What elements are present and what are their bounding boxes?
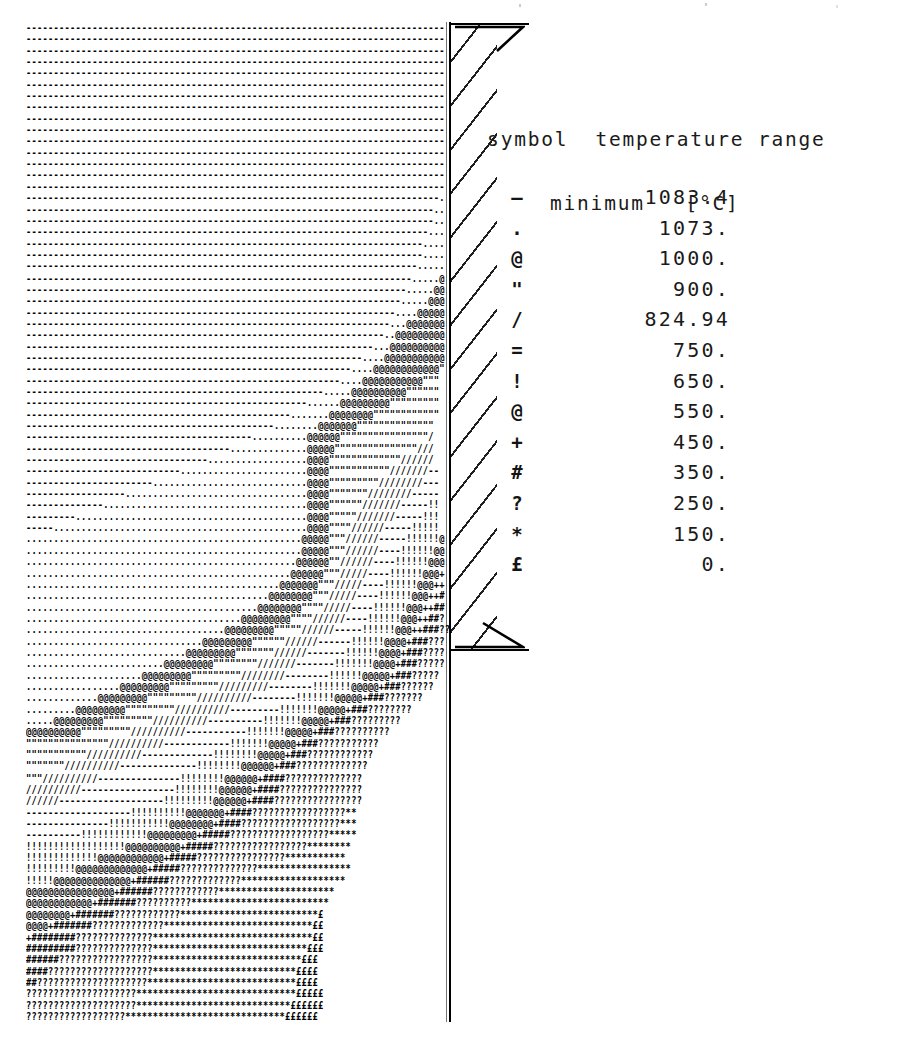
legend-symbol: # [500,457,534,488]
ascii-contour-plot: ----------------------------------------… [26,22,450,1022]
legend-symbol: + [500,427,534,458]
legend-symbol: @ [500,396,534,427]
legend-value: 250. [570,488,730,519]
corner-angle-bottom-icon [453,619,525,649]
legend-value: 450. [570,427,730,458]
legend-symbol: — [500,182,534,213]
corner-angle-top-icon [453,25,525,55]
legend-value: 650. [570,366,730,397]
legend-row: "900. [460,274,860,305]
legend-entries: —1083.4.1073.@1000."900./824.94=750.!650… [460,182,860,580]
legend-title-line-1: symbol temperature range [487,128,826,151]
ascii-plot-text: ----------------------------------------… [26,22,389,1022]
legend-value: 1083.4 [570,182,730,213]
plot-frame-inner-rule [446,22,447,1022]
legend-symbol: " [500,274,534,305]
legend-row: .1073. [460,213,860,244]
legend-row: *150. [460,519,860,550]
legend-value: 1000. [570,243,730,274]
legend-symbol: £ [500,549,534,580]
legend-row: —1083.4 [460,182,860,213]
legend-row: #350. [460,457,860,488]
legend-symbol: * [500,519,534,550]
legend-box-bottom-edge [449,649,529,651]
legend-value: 150. [570,519,730,550]
legend-row: +450. [460,427,860,458]
legend-value: 350. [570,457,730,488]
legend-value: 750. [570,335,730,366]
legend-symbol: = [500,335,534,366]
legend-row: !650. [460,366,860,397]
legend-value: 824.94 [570,304,730,335]
legend-row: ?250. [460,488,860,519]
legend-symbol: ! [500,366,534,397]
scan-artifact [519,4,521,7]
legend-symbol: . [500,213,534,244]
legend-value: 1073. [570,213,730,244]
scan-artifact [705,3,707,6]
legend-symbol: ? [500,488,534,519]
legend-symbol: / [500,304,534,335]
legend-row: @1000. [460,243,860,274]
legend-value: 550. [570,396,730,427]
legend-value: 900. [570,274,730,305]
scan-artifact [836,5,838,8]
legend-row: £0. [460,549,860,580]
legend-row: =750. [460,335,860,366]
legend-value: 0. [570,549,730,580]
legend-row: /824.94 [460,304,860,335]
legend-row: @550. [460,396,860,427]
legend-symbol: @ [500,243,534,274]
